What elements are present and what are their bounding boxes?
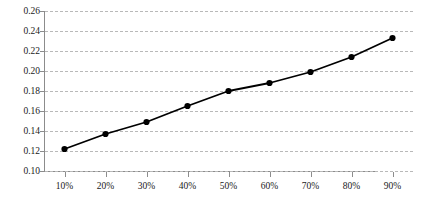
y-tick-label: 0.20: [0, 66, 40, 76]
x-tick-label: 90%: [373, 181, 413, 192]
data-point: [266, 80, 272, 86]
x-tick-mark: [311, 172, 312, 177]
x-tick-mark: [229, 172, 230, 177]
data-point: [348, 54, 354, 60]
x-tick-label: 80%: [332, 181, 372, 192]
x-tick-label: 50%: [209, 181, 249, 192]
y-tick-label: 0.22: [0, 46, 40, 56]
y-tick-label: 0.16: [0, 106, 40, 116]
x-tick-label: 30%: [127, 181, 167, 192]
data-point: [102, 131, 108, 137]
data-point: [61, 146, 67, 152]
data-point: [143, 119, 149, 125]
x-tick-mark: [147, 172, 148, 177]
series-point-markers: [61, 35, 395, 152]
data-series: [44, 11, 413, 172]
x-tick-mark: [393, 172, 394, 177]
x-tick-label: 60%: [250, 181, 290, 192]
x-tick-mark: [65, 172, 66, 177]
y-axis-tick-labels: 0.260.240.220.200.180.160.140.120.10: [0, 0, 40, 208]
plot-area: 10%20%30%40%50%60%70%80%90%: [44, 11, 413, 171]
x-tick-mark: [270, 172, 271, 177]
y-tick-label: 0.12: [0, 146, 40, 156]
x-tick-label: 70%: [291, 181, 331, 192]
y-tick-label: 0.26: [0, 6, 40, 16]
y-tick-label: 0.14: [0, 126, 40, 136]
data-point: [225, 88, 231, 94]
y-tick-label: 0.24: [0, 26, 40, 36]
y-tick-label: 0.18: [0, 86, 40, 96]
data-point: [307, 69, 313, 75]
data-point: [389, 35, 395, 41]
line-chart: 0.260.240.220.200.180.160.140.120.10 10%…: [0, 0, 423, 208]
x-tick-label: 10%: [45, 181, 85, 192]
y-tick-label: 0.10: [0, 166, 40, 176]
x-tick-label: 20%: [86, 181, 126, 192]
data-point: [184, 103, 190, 109]
x-tick-mark: [188, 172, 189, 177]
x-tick-mark: [352, 172, 353, 177]
x-tick-label: 40%: [168, 181, 208, 192]
x-tick-mark: [106, 172, 107, 177]
